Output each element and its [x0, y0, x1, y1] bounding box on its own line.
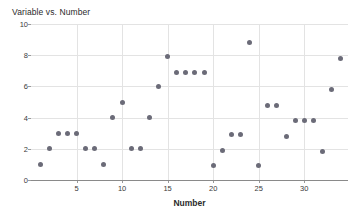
data-point — [147, 115, 152, 120]
x-tick-label: 30 — [300, 184, 308, 193]
gridline-horizontal — [31, 24, 348, 25]
data-point — [110, 115, 115, 120]
data-point — [56, 131, 61, 136]
gridline-vertical — [168, 24, 169, 180]
data-point — [156, 84, 161, 89]
plot-area — [31, 24, 348, 180]
gridline-horizontal — [31, 55, 348, 56]
data-point — [183, 70, 188, 75]
data-point — [174, 70, 179, 75]
data-point — [293, 118, 298, 123]
scatter-chart: Variable vs. Number 0246810 51015202530 … — [0, 0, 359, 217]
x-axis-line — [31, 180, 348, 181]
data-point — [202, 70, 207, 75]
gridline-vertical — [259, 24, 260, 180]
x-tick-label: 20 — [209, 184, 217, 193]
x-tick-label: 5 — [74, 184, 78, 193]
data-point — [138, 146, 143, 151]
data-point — [92, 146, 97, 151]
gridline-horizontal — [31, 86, 348, 87]
data-point — [284, 134, 289, 139]
data-point — [47, 146, 52, 151]
data-point — [65, 131, 70, 136]
data-point — [338, 56, 343, 61]
gridline-vertical — [304, 24, 305, 180]
data-point — [38, 162, 43, 167]
data-point — [74, 131, 79, 136]
data-point — [302, 118, 307, 123]
x-tick-label: 15 — [163, 184, 171, 193]
data-point — [129, 146, 134, 151]
data-point — [311, 118, 316, 123]
data-point — [192, 70, 197, 75]
data-point — [256, 163, 261, 168]
gridline-vertical — [77, 24, 78, 180]
gridline-horizontal — [31, 118, 348, 119]
data-point — [247, 40, 252, 45]
data-point — [238, 132, 243, 137]
y-axis-tick-labels: 0246810 — [0, 0, 28, 217]
data-point — [274, 103, 279, 108]
data-point — [265, 103, 270, 108]
data-point — [329, 87, 334, 92]
data-point — [211, 163, 216, 168]
data-point — [120, 100, 125, 105]
data-point — [83, 146, 88, 151]
data-point — [320, 149, 325, 154]
data-point — [229, 132, 234, 137]
x-axis-label: Number — [31, 198, 348, 208]
data-point — [220, 148, 225, 153]
data-point — [101, 162, 106, 167]
data-point — [165, 54, 170, 59]
gridline-vertical — [213, 24, 214, 180]
x-tick-label: 25 — [255, 184, 263, 193]
gridline-horizontal — [31, 149, 348, 150]
x-tick-label: 10 — [118, 184, 126, 193]
y-tick-label: 10 — [20, 20, 28, 29]
